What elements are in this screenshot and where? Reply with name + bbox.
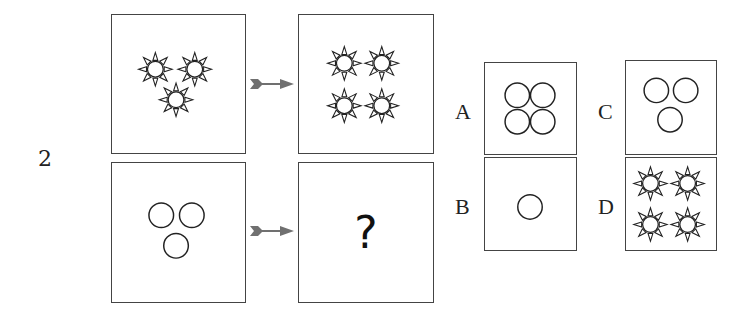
option-a-label: A <box>455 99 471 125</box>
one-circle-figure <box>485 158 576 250</box>
four-circles-figure <box>485 63 576 154</box>
example-input-panel <box>111 14 246 154</box>
option-b-label: B <box>455 194 470 220</box>
option-c-label: C <box>598 99 613 125</box>
option-d-label: D <box>598 194 614 220</box>
arrow-right-icon <box>250 76 296 92</box>
arrow-right-icon <box>250 223 296 239</box>
question-input-panel <box>111 162 246 303</box>
three-suns-figure <box>112 15 245 153</box>
question-number: 2 <box>38 146 52 171</box>
three-circles-figure <box>112 163 245 302</box>
option-c[interactable] <box>625 60 717 155</box>
option-a[interactable] <box>484 62 577 155</box>
answer-placeholder-panel: ? <box>298 162 434 303</box>
example-output-panel <box>298 14 434 154</box>
option-d[interactable] <box>625 157 717 251</box>
option-b[interactable] <box>484 157 577 251</box>
four-suns-figure <box>299 15 433 153</box>
four-suns-figure <box>626 158 716 250</box>
question-mark: ? <box>299 163 433 302</box>
three-circles-figure <box>626 61 716 154</box>
